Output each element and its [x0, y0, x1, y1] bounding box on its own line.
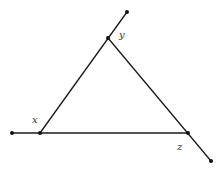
vertex-z	[186, 131, 190, 135]
endpoint-left	[10, 131, 14, 135]
label-y: y	[118, 29, 125, 40]
label-x: x	[32, 114, 38, 125]
vertex-x	[38, 131, 42, 135]
endpoint-bottom-right	[209, 159, 213, 163]
label-z: z	[176, 141, 183, 152]
line-xy-extended	[40, 12, 127, 133]
triangle-diagram: y x z	[0, 0, 218, 173]
endpoint-top	[125, 10, 129, 14]
line-yz-extended	[108, 38, 211, 161]
vertex-y	[106, 36, 110, 40]
